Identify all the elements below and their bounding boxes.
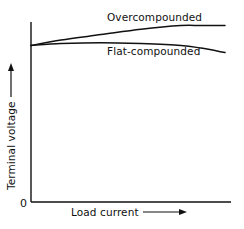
series-line-overcompounded xyxy=(31,25,225,45)
y-axis-label-group: Terminal voltage xyxy=(5,63,17,190)
origin-label: 0 xyxy=(20,198,27,210)
series-label-overcompounded: Overcompounded xyxy=(107,11,202,23)
up-arrow-icon xyxy=(7,63,15,97)
chart-canvas xyxy=(0,0,244,229)
x-axis-label: Load current xyxy=(71,206,139,218)
series-label-flat-compounded: Flat-compounded xyxy=(107,45,200,57)
y-axis-label: Terminal voltage xyxy=(5,101,17,190)
right-arrow-icon xyxy=(143,208,187,216)
x-axis-label-group: Load current xyxy=(71,206,187,218)
